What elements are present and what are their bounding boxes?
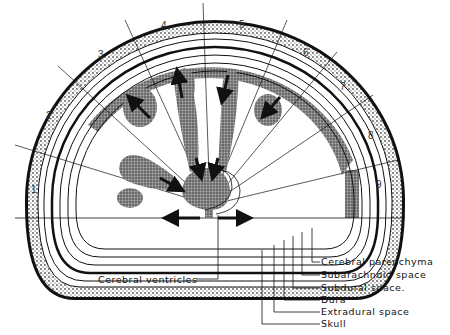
sector-number-5: 5 xyxy=(239,19,245,30)
label-cerebral-parenchyma: Cerebral parenchyma xyxy=(321,256,433,267)
sector-number-2: 2 xyxy=(46,110,52,121)
label-subarachnoid-space: Subarachnoid space xyxy=(321,269,426,280)
sector-number-1: 1 xyxy=(31,184,37,195)
sector-number-4: 4 xyxy=(161,20,167,31)
sector-number-6: 6 xyxy=(303,47,309,58)
sector-number-7: 7 xyxy=(340,81,346,92)
sector-number-3: 3 xyxy=(98,49,104,60)
label-dura: Dura xyxy=(321,294,346,305)
label-extradural-space: Extradural space xyxy=(321,306,409,317)
label-skull: Skull xyxy=(321,318,346,329)
brain-layers-diagram: 1 2 3 4 5 6 7 8 9 Cerebral ventricles Ce… xyxy=(0,0,450,335)
sector-number-8: 8 xyxy=(368,130,374,141)
label-subdural-space: Subdural space. xyxy=(321,282,405,293)
sector-number-9: 9 xyxy=(376,179,382,190)
label-cerebral-ventricles: Cerebral ventricles xyxy=(98,274,197,285)
